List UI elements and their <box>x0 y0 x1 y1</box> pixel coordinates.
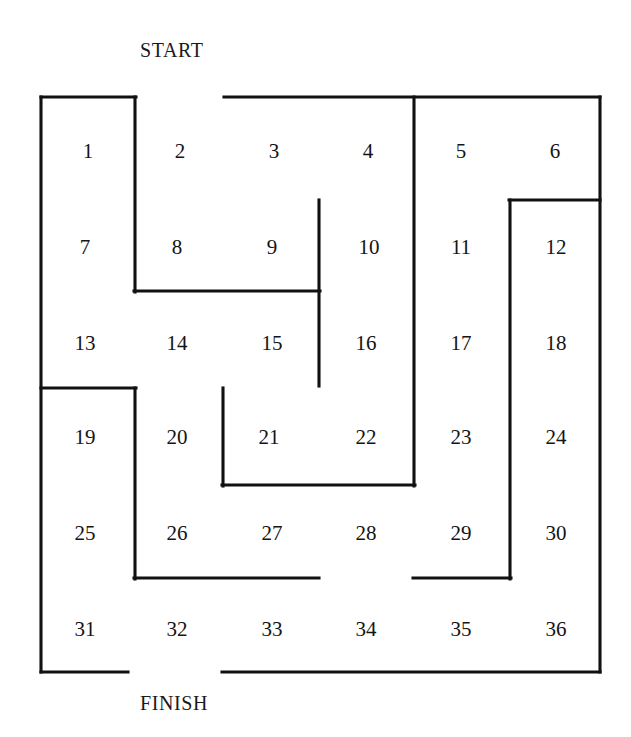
maze-cell-25: 25 <box>75 523 96 544</box>
maze-cell-29: 29 <box>451 523 472 544</box>
maze-cell-11: 11 <box>451 237 471 258</box>
maze-cell-13: 13 <box>75 333 96 354</box>
maze-cell-20: 20 <box>167 427 188 448</box>
maze-cell-16: 16 <box>356 333 377 354</box>
maze-cell-24: 24 <box>546 427 567 448</box>
maze-cell-22: 22 <box>356 427 377 448</box>
maze-cell-31: 31 <box>75 619 96 640</box>
maze-cell-10: 10 <box>359 237 380 258</box>
maze-cell-7: 7 <box>80 237 91 258</box>
maze-cell-32: 32 <box>167 619 188 640</box>
maze-cell-34: 34 <box>356 619 377 640</box>
maze-cell-14: 14 <box>167 333 188 354</box>
maze-cell-36: 36 <box>546 619 567 640</box>
maze-cell-4: 4 <box>363 141 374 162</box>
maze-cell-17: 17 <box>451 333 472 354</box>
maze-cell-18: 18 <box>546 333 567 354</box>
maze-cell-2: 2 <box>175 141 186 162</box>
maze-cell-15: 15 <box>262 333 283 354</box>
maze-diagram: START 1234567891011121314151617181920212… <box>0 0 631 737</box>
maze-cell-28: 28 <box>356 523 377 544</box>
maze-cell-33: 33 <box>262 619 283 640</box>
walls-group <box>41 97 600 672</box>
maze-cell-3: 3 <box>269 141 280 162</box>
maze-cell-9: 9 <box>267 237 278 258</box>
maze-cell-5: 5 <box>456 141 467 162</box>
maze-cell-21: 21 <box>259 427 280 448</box>
maze-cell-19: 19 <box>75 427 96 448</box>
maze-cell-8: 8 <box>172 237 183 258</box>
maze-cell-30: 30 <box>546 523 567 544</box>
maze-cell-6: 6 <box>550 141 561 162</box>
maze-cell-27: 27 <box>262 523 283 544</box>
maze-cell-26: 26 <box>167 523 188 544</box>
maze-cell-1: 1 <box>83 141 94 162</box>
maze-cell-23: 23 <box>451 427 472 448</box>
maze-cell-35: 35 <box>451 619 472 640</box>
finish-label: FINISH <box>140 693 208 713</box>
maze-cell-12: 12 <box>546 237 567 258</box>
